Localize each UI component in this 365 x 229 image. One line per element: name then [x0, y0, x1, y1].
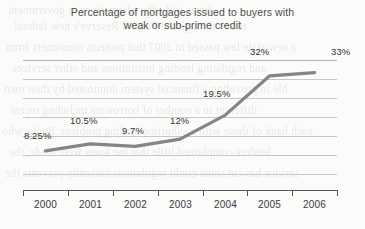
- x-axis-tick: [247, 190, 248, 196]
- data-label-2005: 32%: [250, 46, 269, 57]
- x-axis-label-2002: 2002: [113, 199, 158, 210]
- x-axis-tick: [113, 190, 114, 196]
- x-axis-tick: [23, 190, 24, 196]
- x-axis-line: [23, 190, 337, 191]
- x-axis-tick: [203, 190, 204, 196]
- data-label-2006: 33%: [331, 46, 350, 57]
- x-axis-label-2001: 2001: [68, 199, 113, 210]
- x-axis-label-2003: 2003: [158, 199, 203, 210]
- x-axis-label-2004: 2004: [203, 199, 248, 210]
- x-axis-label-2000: 2000: [23, 199, 68, 210]
- x-axis-label-2005: 2005: [247, 199, 292, 210]
- x-axis-tick: [158, 190, 159, 196]
- x-axis-tick: [292, 190, 293, 196]
- x-axis-label-2006: 2006: [292, 199, 337, 210]
- data-label-2000: 8.25%: [24, 130, 51, 141]
- data-label-2001: 10.5%: [70, 115, 97, 126]
- x-axis-tick: [337, 190, 338, 196]
- line-chart: Percentage of mortgages issued to buyers…: [0, 0, 365, 229]
- data-label-2002: 9.7%: [122, 125, 144, 136]
- data-label-2004: 19.5%: [203, 88, 230, 99]
- x-axis-tick: [68, 190, 69, 196]
- data-label-2003: 12%: [170, 115, 189, 126]
